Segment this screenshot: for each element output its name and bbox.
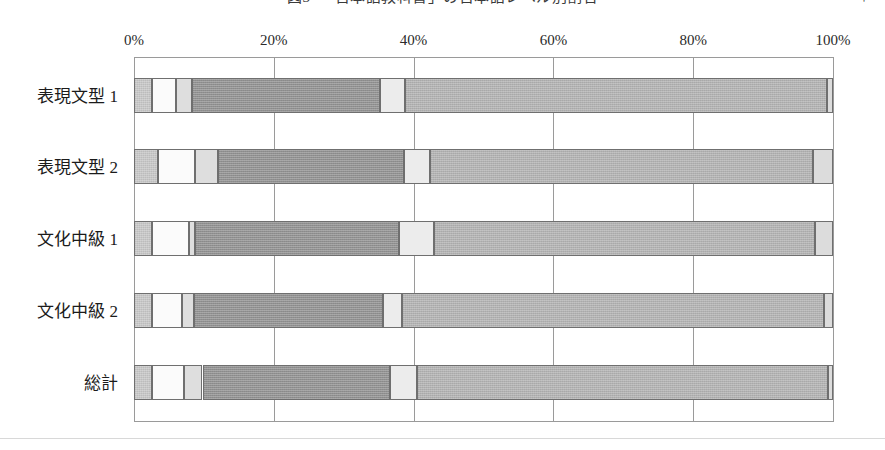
bar-segment — [404, 149, 430, 184]
stacked-bar-chart: 図3 「日本語教科書」の日本語レベル別割合 ＊ 0%20%40%60%80%10… — [0, 0, 885, 450]
bar-segment — [134, 149, 158, 184]
plot-top-border — [134, 57, 833, 58]
bar-segment — [380, 78, 405, 113]
bar-segment — [813, 149, 833, 184]
bar-segment — [827, 78, 833, 113]
bar-segment — [405, 78, 826, 113]
bar-segment — [383, 293, 402, 328]
figure-title-strip: 図3 「日本語教科書」の日本語レベル別割合 ＊ — [0, 0, 885, 12]
x-tick-label-0: 0% — [124, 32, 144, 49]
bar-segment — [182, 293, 194, 328]
bar-segment — [824, 293, 833, 328]
bar-row — [134, 221, 833, 256]
figure-title-note: ＊ — [857, 0, 871, 5]
bar-segment — [218, 149, 404, 184]
bar-segment — [430, 149, 813, 184]
bar-segment — [192, 78, 380, 113]
plot-bottom-border — [134, 421, 833, 422]
bar-segment — [134, 78, 152, 113]
bar-segment — [152, 221, 188, 256]
x-tick-label-20: 20% — [260, 32, 288, 49]
bar-segment — [176, 78, 192, 113]
x-tick-label-100: 100% — [816, 32, 851, 49]
bar-segment — [417, 365, 828, 400]
bar-segment — [828, 365, 833, 400]
page-bottom-rule — [0, 438, 885, 439]
category-label-0: 表現文型 1 — [37, 88, 118, 105]
bar-segment — [434, 221, 815, 256]
category-label-2: 文化中級 1 — [37, 231, 118, 248]
bar-segment — [203, 365, 390, 400]
bar-row — [134, 149, 833, 184]
bar-segment — [158, 149, 195, 184]
x-tick-label-40: 40% — [400, 32, 428, 49]
bar-segment — [152, 293, 182, 328]
bar-segment — [134, 221, 152, 256]
gridline-100 — [833, 57, 834, 422]
category-label-4: 総計 — [84, 375, 118, 392]
bar-segment — [194, 293, 383, 328]
x-tick-label-60: 60% — [540, 32, 568, 49]
bar-segment — [402, 293, 824, 328]
x-tick-label-80: 80% — [679, 32, 707, 49]
bar-segment — [184, 365, 202, 400]
bar-segment — [134, 365, 152, 400]
x-axis-tick-labels: 0%20%40%60%80%100% — [0, 32, 885, 52]
bar-segment — [195, 149, 218, 184]
y-axis-category-labels: 表現文型 1表現文型 2文化中級 1文化中級 2総計 — [0, 57, 126, 422]
bar-row — [134, 365, 833, 400]
bar-segment — [390, 365, 417, 400]
bar-row — [134, 78, 833, 113]
bar-segment — [152, 78, 176, 113]
figure-title: 図3 「日本語教科書」の日本語レベル別割合 — [0, 0, 885, 6]
bar-row — [134, 293, 833, 328]
plot-area — [134, 57, 833, 422]
bar-segment — [152, 365, 184, 400]
bar-segment — [195, 221, 399, 256]
category-label-3: 文化中級 2 — [37, 303, 118, 320]
bar-segment — [815, 221, 833, 256]
category-label-1: 表現文型 2 — [37, 159, 118, 176]
bar-segment — [399, 221, 434, 256]
bar-segment — [134, 293, 152, 328]
